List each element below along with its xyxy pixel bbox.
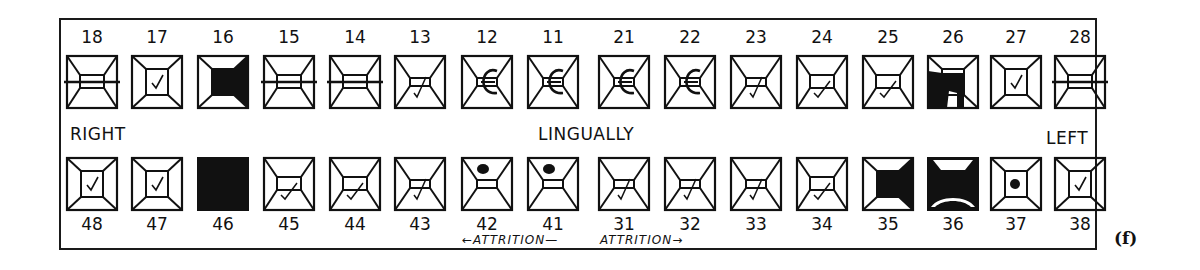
tooth-16-filled-occlusal-distal-icon: [195, 53, 251, 111]
tooth-34-check-occlusal-low-icon: [794, 155, 850, 213]
tooth-46-missing-filled-icon: [195, 155, 251, 213]
left-side-label: LEFT: [1046, 128, 1088, 148]
tooth-41-dot-labial-icon: [525, 155, 581, 213]
tooth-23-check-incisal-icon: [728, 53, 784, 111]
tooth-number-17: 17: [127, 27, 187, 47]
right-side-label: RIGHT: [70, 124, 126, 144]
tooth-26-filled-mesial-occlusal-icon: [925, 53, 981, 111]
tooth-number-18: 18: [62, 27, 122, 47]
tooth-32-check-incisal-icon: [662, 155, 718, 213]
figure-label: (f): [1114, 228, 1137, 248]
tooth-27-check-occlusal-icon: [988, 53, 1044, 111]
tooth-number-23: 23: [726, 27, 786, 47]
tooth-36-filled-full-crown-icon: [925, 155, 981, 213]
tooth-42-dot-labial-icon: [459, 155, 515, 213]
tooth-number-47: 47: [127, 214, 187, 234]
tooth-number-43: 43: [390, 214, 450, 234]
tooth-47-check-occlusal-icon: [129, 155, 185, 213]
tooth-17-check-occlusal-icon: [129, 53, 185, 111]
tooth-number-37: 37: [986, 214, 1046, 234]
tooth-12-crown-c-icon: [459, 53, 515, 111]
tooth-number-21: 21: [594, 27, 654, 47]
tooth-number-25: 25: [858, 27, 918, 47]
tooth-number-35: 35: [858, 214, 918, 234]
tooth-number-31: 31: [594, 214, 654, 234]
tooth-43-check-incisal-icon: [392, 155, 448, 213]
tooth-number-14: 14: [325, 27, 385, 47]
tooth-number-33: 33: [726, 214, 786, 234]
tooth-48-check-occlusal-icon: [64, 155, 120, 213]
tooth-number-28: 28: [1050, 27, 1110, 47]
tooth-45-check-occlusal-low-icon: [261, 155, 317, 213]
tooth-15-horizontal-line-icon: [261, 53, 317, 111]
tooth-number-13: 13: [390, 27, 450, 47]
tooth-number-41: 41: [523, 214, 583, 234]
tooth-28-horizontal-line-icon: [1052, 53, 1108, 111]
tooth-number-15: 15: [259, 27, 319, 47]
tooth-number-48: 48: [62, 214, 122, 234]
tooth-number-12: 12: [457, 27, 517, 47]
tooth-number-44: 44: [325, 214, 385, 234]
tooth-25-check-occlusal-low-icon: [860, 53, 916, 111]
tooth-number-27: 27: [986, 27, 1046, 47]
tooth-21-crown-c-icon: [596, 53, 652, 111]
tooth-24-check-occlusal-low-icon: [794, 53, 850, 111]
tooth-38-check-occlusal-icon: [1052, 155, 1108, 213]
tooth-35-filled-occlusal-distal-icon: [860, 155, 916, 213]
tooth-number-38: 38: [1050, 214, 1110, 234]
tooth-37-dot-occlusal-icon: [988, 155, 1044, 213]
tooth-number-16: 16: [193, 27, 253, 47]
tooth-number-24: 24: [792, 27, 852, 47]
tooth-number-42: 42: [457, 214, 517, 234]
tooth-31-check-incisal-icon: [596, 155, 652, 213]
tooth-number-26: 26: [923, 27, 983, 47]
tooth-33-check-incisal-icon: [728, 155, 784, 213]
attrition-annotation-right: ATTRITION→: [600, 233, 683, 247]
tooth-14-horizontal-line-icon: [327, 53, 383, 111]
tooth-11-crown-c-icon: [525, 53, 581, 111]
tooth-number-22: 22: [660, 27, 720, 47]
tooth-22-crown-c-icon: [662, 53, 718, 111]
tooth-number-46: 46: [193, 214, 253, 234]
lingually-label: LINGUALLY: [538, 124, 634, 144]
attrition-annotation-left: ←ATTRITION—: [462, 233, 558, 247]
tooth-44-check-occlusal-low-icon: [327, 155, 383, 213]
tooth-number-45: 45: [259, 214, 319, 234]
tooth-number-32: 32: [660, 214, 720, 234]
tooth-13-check-incisal-icon: [392, 53, 448, 111]
tooth-number-36: 36: [923, 214, 983, 234]
tooth-number-34: 34: [792, 214, 852, 234]
tooth-18-horizontal-line-icon: [64, 53, 120, 111]
tooth-number-11: 11: [523, 27, 583, 47]
